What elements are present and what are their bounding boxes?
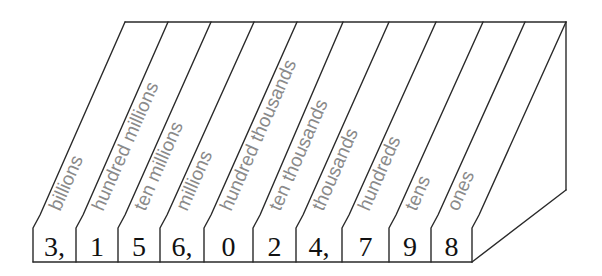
place-column: 4,thousands <box>307 125 362 262</box>
digit-value: 6, <box>172 231 193 262</box>
digit-value: 4, <box>309 231 330 262</box>
place-label: millions <box>171 147 216 213</box>
place-column: 6,millions <box>171 147 216 262</box>
digit-value: 8 <box>445 231 459 262</box>
place-label: ones <box>442 167 478 213</box>
place-label: tens <box>400 172 434 213</box>
place-column: 3,billions <box>44 152 87 262</box>
place-label: hundreds <box>353 133 404 214</box>
place-column: 7hundreds <box>353 133 404 262</box>
digit-value: 9 <box>403 231 417 262</box>
digit-value: 1 <box>90 231 104 262</box>
place-label: billions <box>44 152 87 214</box>
place-column: 9tens <box>400 172 434 262</box>
digit-value: 0 <box>222 231 236 262</box>
digit-value: 2 <box>268 231 282 262</box>
digit-value: 5 <box>132 231 146 262</box>
digit-value: 3, <box>44 231 65 262</box>
column-divider <box>33 22 125 262</box>
place-value-columns: 3,billions1hundred millions5ten millions… <box>44 56 478 262</box>
place-value-diagram: 3,billions1hundred millions5ten millions… <box>0 0 602 276</box>
digit-value: 7 <box>359 231 373 262</box>
